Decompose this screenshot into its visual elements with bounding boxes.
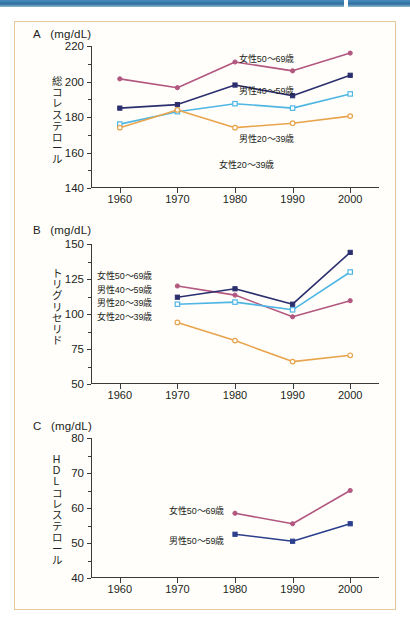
series-marker	[291, 539, 295, 543]
y-tick-label: 140	[65, 182, 84, 194]
x-tick-label: 1990	[280, 193, 304, 205]
series-marker	[291, 69, 295, 73]
y-tick-label: 60	[71, 502, 84, 514]
y-tick-minor	[88, 64, 91, 65]
x-tick-label: 1970	[165, 583, 189, 595]
y-tick	[87, 508, 92, 509]
y-tick	[87, 46, 92, 47]
series-line	[177, 286, 350, 317]
series-marker	[118, 77, 122, 81]
series-annotation: 女性50〜69歳	[239, 52, 294, 65]
caption-char: ド	[49, 335, 64, 346]
top-bar-gap	[344, 0, 348, 7]
y-tick-minor	[88, 135, 91, 136]
panel-a-letter: A	[33, 28, 41, 40]
series-marker	[233, 338, 238, 343]
series-marker	[291, 302, 295, 306]
y-tick-minor	[88, 262, 91, 263]
x-tick	[235, 578, 236, 583]
series-annotation: 男性40〜59歳	[239, 84, 294, 97]
y-tick-label: 125	[65, 273, 84, 285]
figure-frame: A (mg/dL) 総コレステロール 140160180200220196019…	[14, 21, 396, 610]
y-tick-label: 150	[65, 238, 84, 250]
panel-b-unit: (mg/dL)	[50, 224, 91, 236]
y-tick	[87, 384, 92, 385]
x-tick	[120, 578, 121, 583]
y-tick-minor	[88, 170, 91, 171]
y-tick-label: 70	[71, 467, 84, 479]
x-tick-label: 1980	[223, 193, 247, 205]
x-tick-label: 1980	[223, 583, 247, 595]
y-tick	[87, 244, 92, 245]
legend-entry: 男性20〜39歳	[97, 297, 152, 311]
panel-c-letter: C	[33, 420, 42, 432]
caption-char: ロ	[49, 532, 64, 543]
series-marker	[348, 250, 352, 254]
y-tick-label: 75	[71, 343, 84, 355]
y-tick-minor	[88, 367, 91, 368]
series-marker	[348, 114, 353, 119]
x-tick	[350, 188, 351, 193]
series-marker	[290, 308, 294, 312]
x-tick	[120, 384, 121, 389]
x-tick	[120, 188, 121, 193]
x-tick-label: 1960	[108, 583, 132, 595]
series-marker	[233, 101, 237, 105]
y-tick-label: 220	[65, 40, 84, 52]
series-marker	[233, 287, 237, 291]
x-tick-label: 2000	[338, 583, 362, 595]
panel-c-plot-area: 405060708019601970198019902000女性50〜69歳男性…	[91, 438, 379, 578]
y-tick-label: 50	[71, 537, 84, 549]
panel-a-unit: (mg/dL)	[50, 28, 91, 40]
panel-a-header: A (mg/dL)	[33, 28, 91, 40]
caption-char: ル	[49, 555, 64, 566]
series-marker	[233, 300, 237, 304]
y-tick	[87, 543, 92, 544]
y-tick-minor	[88, 99, 91, 100]
series-marker	[233, 511, 237, 515]
x-tick	[177, 384, 178, 389]
series-marker	[348, 51, 352, 55]
series-annotation: 男性50〜59歳	[169, 534, 224, 547]
panel-b-letter: B	[33, 224, 41, 236]
x-tick	[235, 384, 236, 389]
series-marker	[175, 295, 179, 299]
y-tick-label: 100	[65, 308, 84, 320]
x-tick-label: 1970	[165, 389, 189, 401]
y-tick	[87, 117, 92, 118]
legend-entry: 女性20〜39歳	[97, 311, 152, 325]
series-marker	[175, 86, 179, 90]
y-tick	[87, 188, 92, 189]
y-tick	[87, 82, 92, 83]
x-tick-label: 1990	[280, 389, 304, 401]
series-marker	[348, 270, 352, 274]
chart-panel-c: C (mg/dL) HDLコレステロール 4050607080196019701…	[15, 416, 397, 609]
series-marker	[348, 73, 352, 77]
y-tick	[87, 153, 92, 154]
x-tick-label: 1960	[108, 389, 132, 401]
y-tick	[87, 438, 92, 439]
x-tick-label: 1960	[108, 193, 132, 205]
legend-entry: 男性40〜59歳	[97, 284, 152, 298]
y-tick-minor	[88, 561, 91, 562]
series-marker	[175, 284, 179, 288]
y-tick-minor	[88, 491, 91, 492]
x-tick-label: 1990	[280, 583, 304, 595]
x-tick	[235, 188, 236, 193]
series-marker	[175, 102, 179, 106]
series-line	[235, 524, 350, 542]
y-tick-label: 180	[65, 111, 84, 123]
series-annotation: 女性50〜69歳	[169, 504, 224, 517]
panel-b-header: B (mg/dL)	[33, 224, 91, 236]
panel-b-legend: 女性50〜69歳男性40〜59歳男性20〜39歳女性20〜39歳	[97, 270, 152, 324]
caption-char: L	[49, 476, 64, 487]
series-marker	[290, 359, 295, 364]
legend-entry: 女性50〜69歳	[97, 270, 152, 284]
panel-c-header: C (mg/dL)	[33, 420, 92, 432]
y-tick-label: 200	[65, 76, 84, 88]
panel-c-series-layer	[91, 438, 379, 578]
y-tick-label: 80	[71, 432, 84, 444]
x-tick-label: 2000	[338, 193, 362, 205]
y-tick-label: 50	[71, 378, 84, 390]
series-marker	[118, 106, 122, 110]
